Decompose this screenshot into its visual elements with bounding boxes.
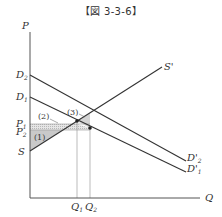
region-1-label: (1) xyxy=(34,133,45,142)
equilibrium-point-2 xyxy=(88,126,92,130)
q1-label: Q1 xyxy=(71,201,83,213)
equilibrium-point-1 xyxy=(75,119,79,123)
supply-curve xyxy=(30,67,162,151)
region-2 xyxy=(30,124,90,130)
region-3-leader xyxy=(79,114,85,117)
demand-curve-d2 xyxy=(30,75,186,161)
d2-start-label: D2 xyxy=(15,69,28,81)
s-start-label: S xyxy=(18,146,25,157)
d1-end-label: D'1 xyxy=(186,163,202,175)
x-axis-label: Q xyxy=(205,192,213,203)
region-3-label: (3) xyxy=(67,108,78,117)
s-end-label: S' xyxy=(164,61,174,72)
supply-demand-diagram: P Q D2 D1 P1 P2 S S' D'2 D'1 Q1 Q2 (1) (… xyxy=(0,0,222,217)
y-axis-label: P xyxy=(21,20,29,31)
region-2-label: (2) xyxy=(38,112,49,121)
d1-start-label: D1 xyxy=(15,91,28,103)
region-2-leader xyxy=(50,119,58,123)
q2-label: Q2 xyxy=(85,201,97,213)
